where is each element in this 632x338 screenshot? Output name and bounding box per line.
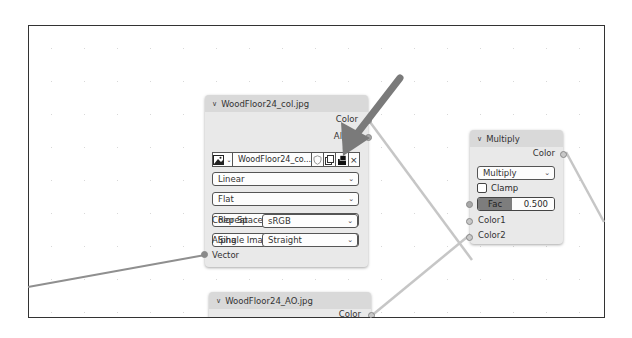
input-color1-label: Color1 [478, 215, 506, 225]
color-space-label: Color Space [212, 215, 263, 225]
node-header[interactable]: ∨ Multiply [470, 130, 563, 147]
input-color1-socket[interactable] [466, 218, 473, 225]
color-space-value: sRGB [268, 216, 291, 226]
blend-mode-value: Multiply [483, 168, 517, 178]
collapse-icon: ∨ [477, 135, 482, 143]
chevron-down-icon: ⌄ [347, 217, 353, 225]
fac-slider[interactable]: Fac 0.500 [477, 197, 555, 211]
output-color-socket[interactable] [560, 151, 567, 158]
chevron-down-icon: ⌄ [348, 175, 354, 183]
copy-icon [325, 155, 334, 165]
output-color-socket[interactable] [368, 312, 375, 317]
image-icon [213, 155, 224, 165]
chevron-down-icon: ⌄ [226, 156, 231, 163]
alpha-label: Alpha [212, 235, 236, 245]
blend-mode-dropdown[interactable]: Multiply ⌄ [477, 166, 555, 180]
chevron-down-icon: ⌄ [347, 236, 353, 244]
input-color2-socket[interactable] [466, 234, 473, 241]
image-type-button[interactable]: ⌄ [212, 152, 233, 167]
input-color2-label: Color2 [478, 230, 506, 240]
output-color-label: Color [533, 148, 555, 158]
node-title: WoodFloor24_col.jpg [221, 99, 309, 109]
input-vector-label: Vector [212, 250, 239, 260]
clamp-checkbox[interactable]: Clamp [477, 183, 518, 193]
node-title: Multiply [486, 134, 520, 144]
chevron-down-icon: ⌄ [348, 195, 354, 203]
output-alpha-label: Alpha [334, 131, 358, 141]
node-header[interactable]: ∨ WoodFloor24_AO.jpg [209, 292, 371, 309]
clamp-label: Clamp [491, 183, 518, 193]
ao-texture-node[interactable]: ∨ WoodFloor24_AO.jpg Color [209, 292, 371, 317]
output-alpha-socket[interactable] [365, 134, 372, 141]
fac-value: 0.500 [512, 198, 554, 210]
color-space-dropdown[interactable]: sRGB ⌄ [262, 214, 358, 228]
multiply-node[interactable]: ∨ Multiply Color Multiply ⌄ Clamp Fac 0.… [470, 130, 563, 244]
collapse-icon[interactable]: ∨ [212, 100, 217, 108]
node-header[interactable]: ∨ WoodFloor24_col.jpg [205, 95, 368, 112]
projection-dropdown[interactable]: Flat ⌄ [212, 192, 359, 206]
input-vector-socket[interactable] [201, 251, 208, 258]
output-color-label: Color [336, 114, 358, 124]
interpolation-value: Linear [218, 174, 244, 184]
chevron-down-icon: ⌄ [544, 169, 550, 177]
output-color-socket[interactable] [365, 117, 372, 124]
close-button[interactable]: × [348, 152, 360, 167]
checkbox-box[interactable] [477, 183, 487, 193]
image-selector: ⌄ WoodFloor24_co... × [212, 152, 359, 167]
input-fac-socket[interactable] [466, 201, 473, 208]
interpolation-dropdown[interactable]: Linear ⌄ [212, 172, 359, 186]
close-icon: × [350, 155, 358, 165]
shield-icon [313, 155, 322, 165]
collapse-icon: ∨ [216, 297, 221, 305]
projection-value: Flat [218, 194, 234, 204]
alpha-dropdown[interactable]: Straight ⌄ [262, 233, 358, 247]
node-title: WoodFloor24_AO.jpg [225, 296, 313, 306]
pack-icon [337, 155, 347, 165]
output-color-label: Color [339, 309, 361, 317]
image-name-field[interactable]: WoodFloor24_co... [232, 152, 312, 167]
alpha-value: Straight [268, 235, 302, 245]
fac-label: Fac [478, 198, 512, 210]
